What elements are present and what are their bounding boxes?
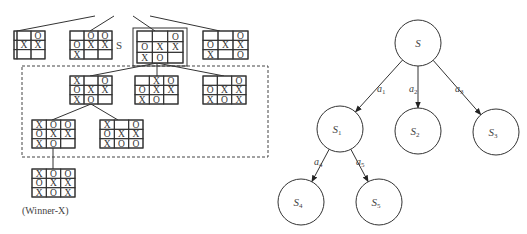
board-top-s: OXXOOX [137,31,183,63]
right-tree-nodes: SS1S2S3S4S5 [278,20,519,225]
o-mark: O [50,188,57,198]
x-mark: X [88,40,95,50]
x-mark: X [74,95,81,105]
state-node-S2: S2 [395,108,441,154]
x-mark: X [207,95,214,105]
edge-label-S-S2: a2 [409,83,418,96]
x-mark: X [64,188,71,198]
o-mark: O [157,53,164,63]
x-mark: X [167,85,174,95]
x-mark: X [35,40,42,50]
x-mark: X [141,53,148,63]
board-winner: XOXOXOOXX [32,169,75,198]
board-mid-1: XOXXOOX [70,76,112,105]
winner-label: (Winner-X) [22,205,69,217]
board-low-2: XOXXOOXO [100,120,143,149]
state-node-label: S [415,37,421,49]
o-mark: O [237,50,244,60]
connector-top-4 [150,16,220,31]
o-mark: O [50,139,57,149]
board-top-4: OXXOXO [203,31,248,60]
o-mark: O [172,32,179,42]
x-mark: X [21,40,28,50]
root-label: S [116,39,122,51]
edge-label-S1-S4: a4 [314,156,323,169]
game-tree-diagram: S XOXOXOXOXOXXOOXOXXOXOXOXXOOXOXXXOOXOXX… [0,0,527,234]
x-mark: X [74,50,81,60]
board-top-2: OXOXOX [70,31,112,60]
o-mark: O [221,95,228,105]
board-top-1: XOX [14,31,45,59]
edge-label-S-S3: a3 [455,83,464,96]
connector-s-mid-3 [157,63,224,76]
x-mark: X [207,50,214,60]
state-node-S3: S3 [473,109,519,155]
x-mark: X [172,42,179,52]
o-mark: O [132,139,139,149]
state-node-S: S [395,20,441,66]
boards-layer: XOXOXOXOXOXXOOXOXXOXOXOXXOOXOXXXOOXOXXOO… [14,31,248,198]
connector-top-1 [17,16,95,31]
edge-label-S1-S5: a5 [356,156,365,169]
state-node-S5: S5 [356,179,402,225]
connector-mid-1-low-2 [91,104,118,120]
x-mark: X [235,95,242,105]
board-low-1: XOXOXOOX [32,120,75,149]
x-mark: X [36,139,43,149]
state-node-S1: S1 [317,106,363,152]
o-mark: O [118,139,125,149]
x-mark: X [139,95,146,105]
x-mark: X [157,42,164,52]
o-mark: O [88,95,95,105]
board-mid-2: OXXXOOX [135,76,178,105]
x-mark: X [222,40,229,50]
o-mark: O [153,95,160,105]
connector-mid-1-low-1 [52,104,91,120]
board-mid-3: OXXOOXX [203,76,246,105]
connector-s-mid-1 [90,63,157,76]
connector-top-s [133,16,155,31]
x-mark: X [64,129,71,139]
x-mark: X [102,40,109,50]
o-mark: O [141,42,148,52]
connector-top-2 [90,16,114,31]
x-mark: X [36,188,43,198]
state-node-S4: S4 [278,179,324,225]
x-mark: X [102,85,109,95]
x-mark: X [104,139,111,149]
edge-label-S-S1: a1 [377,83,386,96]
